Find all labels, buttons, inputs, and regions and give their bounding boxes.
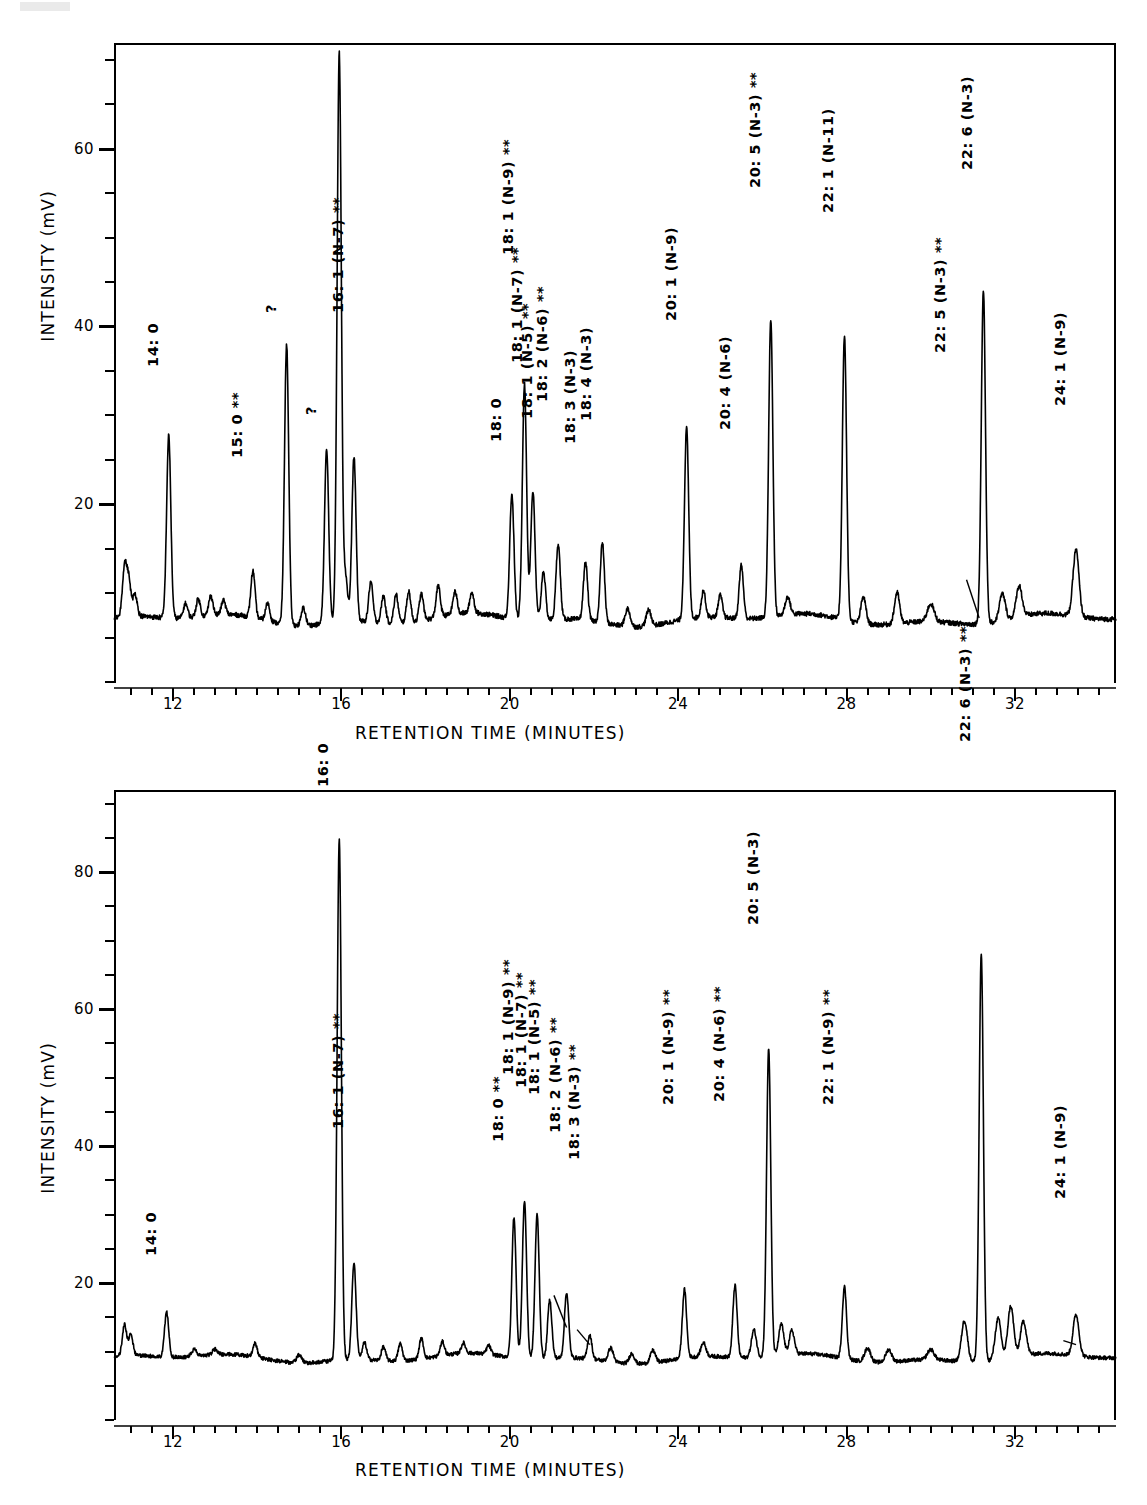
x-tick-label: 20 <box>485 695 535 713</box>
x-tick-label: 20 <box>485 1433 535 1451</box>
x-tick-minor <box>551 688 553 695</box>
label-leader-line <box>967 580 980 618</box>
x-axis-label-bottom: RETENTION TIME (MINUTES) <box>355 1460 626 1480</box>
x-tick-minor <box>719 1426 721 1433</box>
y-tick-label: 60 <box>52 140 94 158</box>
peak-label: 20: 1 (N-9) ** <box>660 989 676 1105</box>
y-tick-label: 40 <box>52 317 94 335</box>
peak-label: 18: 1 (N-9) ** <box>500 139 516 255</box>
y-tick-minor <box>105 974 114 976</box>
x-tick-minor <box>909 688 911 695</box>
peak-label: 22: 1 (N-9) ** <box>820 989 836 1105</box>
x-axis-label-top: RETENTION TIME (MINUTES) <box>355 723 626 743</box>
x-tick-minor <box>151 688 153 695</box>
x-tick-label: 16 <box>316 1433 366 1451</box>
x-tick-minor <box>930 1426 932 1433</box>
chromatogram-panel-top: INTENSITY (mV) 204060121620242832 14: 01… <box>0 0 1147 752</box>
peak-label: 22: 6 (N-3) ** <box>957 626 973 742</box>
x-tick-minor <box>635 1426 637 1433</box>
x-tick-minor <box>1077 688 1079 695</box>
x-tick-minor <box>425 688 427 695</box>
x-tick-minor <box>635 688 637 695</box>
x-tick-minor <box>698 1426 700 1433</box>
x-tick-minor <box>488 688 490 695</box>
peak-label: 14: 0 <box>143 1212 159 1256</box>
peak-label: 16: 0 <box>315 743 331 787</box>
x-tick-minor <box>446 1426 448 1433</box>
x-tick-minor <box>593 1426 595 1433</box>
y-tick-minor <box>105 940 114 942</box>
x-tick-minor <box>698 688 700 695</box>
x-tick-label: 28 <box>822 695 872 713</box>
x-tick-label: 16 <box>316 695 366 713</box>
x-tick-minor <box>256 1426 258 1433</box>
x-tick-minor <box>446 688 448 695</box>
x-tick-minor <box>319 1426 321 1433</box>
x-tick-minor <box>551 1426 553 1433</box>
y-tick-minor <box>105 59 114 61</box>
y-tick-major <box>99 325 114 328</box>
x-tick-minor <box>193 1426 195 1433</box>
x-tick-minor <box>530 688 532 695</box>
x-tick-minor <box>151 1426 153 1433</box>
y-tick-minor <box>105 103 114 105</box>
peak-label: 14: 0 <box>145 323 161 367</box>
x-tick-minor <box>1077 1426 1079 1433</box>
y-tick-minor <box>105 905 114 907</box>
peak-label: 20: 4 (N-6) ** <box>711 986 727 1102</box>
y-tick-label: 60 <box>52 1000 94 1018</box>
x-tick-minor <box>361 1426 363 1433</box>
x-tick-minor <box>930 688 932 695</box>
y-tick-minor <box>105 592 114 594</box>
y-tick-minor <box>105 681 114 683</box>
x-tick-minor <box>298 1426 300 1433</box>
x-tick-minor <box>425 1426 427 1433</box>
peak-label: 18: 3 (N-3) ** <box>566 1044 582 1160</box>
label-leader-line <box>577 1330 590 1345</box>
peak-label: 24: 1 (N-9) <box>1052 1105 1068 1199</box>
y-tick-major <box>99 871 114 874</box>
y-tick-minor <box>105 1248 114 1250</box>
chromatogram-panel-bottom: INTENSITY (mV) 20406080121620242832 14: … <box>0 752 1147 1505</box>
y-tick-label: 20 <box>52 495 94 513</box>
x-tick-minor <box>488 1426 490 1433</box>
y-tick-major <box>99 503 114 506</box>
peak-label: 20: 5 (N-3) <box>745 831 761 925</box>
peak-label: 18: 0 <box>488 398 504 442</box>
x-tick-minor <box>530 1426 532 1433</box>
x-tick-minor <box>614 688 616 695</box>
peak-label: 22: 6 (N-3) <box>959 76 975 170</box>
x-tick-label: 12 <box>148 695 198 713</box>
x-tick-minor <box>593 688 595 695</box>
peak-label: 18: 2 (N-6) ** <box>547 1017 563 1133</box>
x-tick-minor <box>361 688 363 695</box>
x-tick-minor <box>467 688 469 695</box>
x-tick-minor <box>193 688 195 695</box>
x-tick-minor <box>235 688 237 695</box>
x-tick-minor <box>803 1426 805 1433</box>
x-tick-label: 32 <box>990 695 1040 713</box>
x-tick-minor <box>382 688 384 695</box>
x-tick-minor <box>214 688 216 695</box>
x-tick-minor <box>572 688 574 695</box>
peak-label: 18: 3 (N-3) <box>562 350 578 444</box>
y-tick-minor <box>105 1385 114 1387</box>
x-tick-label: 24 <box>653 695 703 713</box>
x-tick-minor <box>1035 688 1037 695</box>
y-tick-minor <box>105 370 114 372</box>
peak-label: 15: 0 ** <box>229 392 245 458</box>
x-tick-minor <box>130 1426 132 1433</box>
y-tick-minor <box>105 1077 114 1079</box>
x-tick-minor <box>403 1426 405 1433</box>
y-tick-minor <box>105 192 114 194</box>
x-tick-minor <box>993 688 995 695</box>
x-tick-minor <box>277 1426 279 1433</box>
x-tick-minor <box>825 688 827 695</box>
y-tick-label: 80 <box>52 863 94 881</box>
x-tick-minor <box>298 688 300 695</box>
peak-label: 16: 1 (N-7) ** <box>330 1013 346 1129</box>
x-tick-minor <box>761 688 763 695</box>
x-tick-minor <box>1098 688 1100 695</box>
x-tick-minor <box>909 1426 911 1433</box>
y-tick-label: 40 <box>52 1137 94 1155</box>
